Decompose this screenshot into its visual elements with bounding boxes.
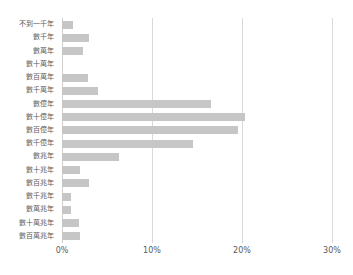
x-tick-label: 20% bbox=[233, 246, 251, 255]
bar-rows bbox=[62, 18, 332, 243]
category-label: 數百萬年 bbox=[0, 71, 58, 84]
bar bbox=[62, 219, 79, 227]
bar-row bbox=[62, 164, 332, 177]
y-axis-category-labels: 不到一千年數千年數萬年數十萬年數百萬年數千萬年數億年數十億年數百億年數千億年數兆… bbox=[0, 18, 58, 243]
gridline bbox=[332, 18, 333, 243]
bar-row bbox=[62, 150, 332, 163]
x-axis: 0%10%20%30% bbox=[62, 246, 332, 262]
category-label: 數百兆年 bbox=[0, 177, 58, 190]
bar bbox=[62, 140, 193, 148]
category-label: 數十萬兆年 bbox=[0, 217, 58, 230]
plot-area bbox=[62, 18, 332, 243]
bar-row bbox=[62, 31, 332, 44]
category-label: 數億年 bbox=[0, 97, 58, 110]
category-label: 不到一千年 bbox=[0, 18, 58, 31]
category-label: 數十億年 bbox=[0, 111, 58, 124]
bar bbox=[62, 74, 88, 82]
category-label: 數千萬年 bbox=[0, 84, 58, 97]
bar-row bbox=[62, 84, 332, 97]
bar bbox=[62, 34, 89, 42]
bar bbox=[62, 179, 89, 187]
category-label: 數萬兆年 bbox=[0, 203, 58, 216]
bar bbox=[62, 206, 71, 214]
category-label: 數百萬兆年 bbox=[0, 230, 58, 243]
bar-row bbox=[62, 111, 332, 124]
category-label: 數千年 bbox=[0, 31, 58, 44]
bar-row bbox=[62, 18, 332, 31]
bar-row bbox=[62, 97, 332, 110]
x-tick-label: 30% bbox=[323, 246, 341, 255]
bar-row bbox=[62, 203, 332, 216]
bar-row bbox=[62, 230, 332, 243]
bar-row bbox=[62, 71, 332, 84]
category-label: 數千億年 bbox=[0, 137, 58, 150]
bar-row bbox=[62, 58, 332, 71]
bar bbox=[62, 47, 83, 55]
bar bbox=[62, 87, 98, 95]
bar-row bbox=[62, 177, 332, 190]
bar-chart: 不到一千年數千年數萬年數十萬年數百萬年數千萬年數億年數十億年數百億年數千億年數兆… bbox=[0, 0, 353, 275]
category-label: 數兆年 bbox=[0, 150, 58, 163]
x-tick-label: 10% bbox=[143, 246, 161, 255]
bar bbox=[62, 232, 80, 240]
category-label: 數千兆年 bbox=[0, 190, 58, 203]
bar bbox=[62, 153, 119, 161]
bar bbox=[62, 126, 238, 134]
category-label: 數十兆年 bbox=[0, 164, 58, 177]
category-label: 數十萬年 bbox=[0, 58, 58, 71]
bar-row bbox=[62, 44, 332, 57]
x-tick-label: 0% bbox=[56, 246, 69, 255]
category-label: 數萬年 bbox=[0, 44, 58, 57]
bar bbox=[62, 21, 73, 29]
category-label: 數百億年 bbox=[0, 124, 58, 137]
bar bbox=[62, 100, 211, 108]
bar bbox=[62, 113, 245, 121]
bar bbox=[62, 193, 71, 201]
bar-row bbox=[62, 137, 332, 150]
bar-row bbox=[62, 190, 332, 203]
bar bbox=[62, 166, 80, 174]
bar-row bbox=[62, 124, 332, 137]
bar-row bbox=[62, 217, 332, 230]
